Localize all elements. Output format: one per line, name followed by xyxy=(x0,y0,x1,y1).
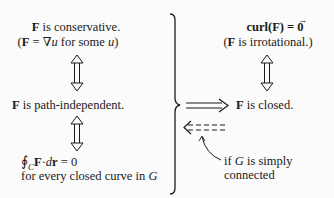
equivalence-arrow-icon xyxy=(261,55,273,91)
converse-dashed-arrow-icon xyxy=(184,121,227,134)
right-brace-icon xyxy=(170,14,180,194)
equivalence-arrow-icon xyxy=(71,116,83,151)
diagram-graphics xyxy=(0,0,334,198)
pointer-curve-icon xyxy=(199,136,221,160)
implies-arrow-icon xyxy=(186,99,228,112)
equivalence-arrow-icon xyxy=(71,55,83,91)
